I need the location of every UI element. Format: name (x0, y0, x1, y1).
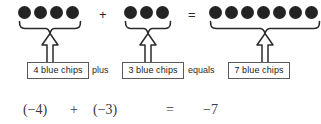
chip-row-4 (18, 6, 79, 19)
chip (257, 6, 270, 19)
equation-operator-equals: = (166, 99, 174, 121)
chip (18, 6, 31, 19)
label-box-7-blue-chips[interactable]: 7 blue chips (228, 62, 290, 79)
chip (209, 6, 222, 19)
equation-term-second: (−3) (93, 99, 117, 121)
chip-row-3 (124, 6, 169, 19)
chip (241, 6, 254, 19)
figure-canvas: 4 blue chips 3 blue chips 7 blue c (0, 0, 321, 124)
equation-operator-plus: + (70, 99, 78, 121)
chip (273, 6, 286, 19)
brace-arrow-connector (18, 20, 82, 66)
equals-word: equals (188, 62, 215, 79)
chip-row-7 (209, 6, 318, 19)
plus-word: plus (92, 62, 109, 79)
chip (50, 6, 63, 19)
chip (225, 6, 238, 19)
equation-result: −7 (203, 99, 218, 121)
chip (156, 6, 169, 19)
chip (34, 6, 47, 19)
label-box-3-blue-chips[interactable]: 3 blue chips (122, 62, 184, 79)
chip (140, 6, 153, 19)
equation-term-first: (−4) (23, 99, 47, 121)
chip (305, 6, 318, 19)
brace-arrow-connector (124, 20, 172, 66)
chip (124, 6, 137, 19)
equals-symbol: = (188, 8, 196, 21)
label-box-4-blue-chips[interactable]: 4 blue chips (27, 62, 89, 79)
chip (289, 6, 302, 19)
plus-symbol: + (99, 8, 107, 21)
numeric-equation: (−4) + (−3) = −7 (0, 99, 321, 121)
chip (66, 6, 79, 19)
brace-arrow-connector (209, 20, 321, 66)
